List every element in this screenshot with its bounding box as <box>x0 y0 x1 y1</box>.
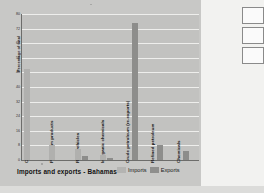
legend-label-imports: Imports <box>128 167 147 173</box>
bar-imports <box>49 145 55 160</box>
y-axis-tick: 24 <box>4 114 20 118</box>
chart-legend: Imports Exports <box>117 167 180 173</box>
legend-label-exports: Exports <box>161 167 180 173</box>
y-axis-tick: 16 <box>4 129 20 133</box>
y-axis-tick: 80 <box>4 12 20 16</box>
chart-title: Imports and exports - Bahamas <box>17 168 117 175</box>
bar-exports <box>157 145 163 160</box>
chart-footer: Imports and exports - Bahamas Imports Ex… <box>0 160 201 186</box>
edge-box-3[interactable] <box>242 47 264 64</box>
bar-group <box>176 14 201 160</box>
bar-exports <box>132 23 138 160</box>
edge-box-2[interactable] <box>242 27 264 44</box>
screenshot-root: 08162432404856647280 Percentage of total… <box>0 0 264 193</box>
y-axis-tick: 8 <box>4 143 20 147</box>
legend-item-exports: Exports <box>150 167 180 173</box>
bar-group <box>49 14 74 160</box>
bar-imports <box>75 149 81 160</box>
right-side-panel <box>201 0 264 193</box>
scan-artifact <box>90 4 92 5</box>
bar-series-container: Crude petroleumPetroleum productsRoad ve… <box>22 14 199 160</box>
bar-group <box>100 14 125 160</box>
chart-card: 08162432404856647280 Percentage of total… <box>0 0 201 186</box>
legend-item-imports: Imports <box>117 167 147 173</box>
y-axis-tick: 32 <box>4 100 20 104</box>
edge-box-1[interactable] <box>242 7 264 24</box>
bar-group <box>75 14 100 160</box>
scan-speck <box>41 163 43 165</box>
bar-imports <box>24 69 30 160</box>
legend-swatch-imports <box>117 167 126 173</box>
bar-group <box>125 14 150 160</box>
bar-group <box>24 14 49 160</box>
bottom-strip <box>0 186 264 193</box>
bar-exports <box>183 151 189 160</box>
bar-group <box>150 14 175 160</box>
legend-swatch-exports <box>150 167 159 173</box>
